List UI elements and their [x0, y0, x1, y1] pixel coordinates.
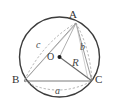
vertex-label-A: A — [69, 9, 77, 20]
center-dot — [58, 55, 62, 59]
side-label-a: a — [55, 86, 60, 96]
side-label-b: b — [80, 42, 85, 52]
geometry-figure: A B C O c b a R — [0, 0, 113, 112]
side-label-c: c — [36, 40, 40, 50]
center-label-O: O — [47, 52, 54, 62]
vertex-label-C: C — [95, 74, 102, 85]
radius-label-R: R — [72, 57, 79, 68]
vertex-label-B: B — [12, 74, 19, 85]
